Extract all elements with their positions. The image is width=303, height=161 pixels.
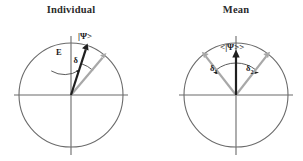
- label-delta1: δ1: [210, 63, 217, 75]
- label-delta2: δ2: [246, 63, 253, 75]
- label-psi-ket: |Ψ>: [78, 31, 92, 41]
- arc-E: [51, 70, 79, 74]
- label-delta: δ: [74, 55, 79, 65]
- component-vector-1-mean: [202, 52, 236, 95]
- panel-mean: Mean δ1 δ2 <|Ψ>>: [179, 4, 293, 155]
- arc-delta1: [216, 63, 236, 70]
- label-E: E: [56, 47, 62, 57]
- panel-title-individual: Individual: [47, 4, 96, 15]
- phasor-diagram-figure: Individual E δ |Ψ> Mean: [0, 0, 303, 161]
- psi-vector-individual: [71, 44, 89, 95]
- panel-individual: Individual E δ |Ψ>: [14, 4, 128, 155]
- label-mean-psi-ket: <|Ψ>>: [220, 42, 244, 52]
- mean-psi-vector: [232, 50, 239, 96]
- panel-title-mean: Mean: [223, 4, 249, 15]
